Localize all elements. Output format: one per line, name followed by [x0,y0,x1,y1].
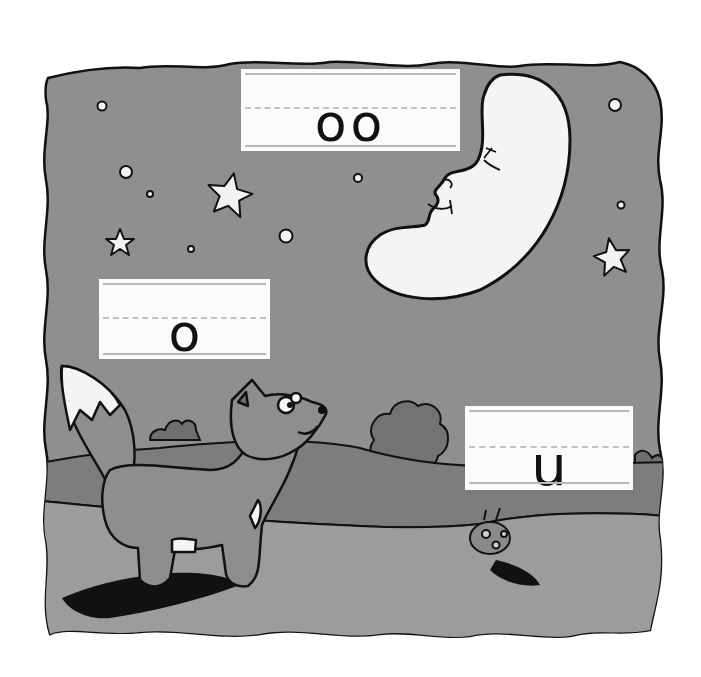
card-letters: o [99,307,270,359]
moon-label-card: oo [241,69,460,151]
illustration-scene: oo o u [0,0,701,677]
card-letters: oo [241,97,460,149]
fox-label-card: o [99,279,270,359]
bug-label-card: u [465,406,633,490]
card-letters: u [465,438,633,494]
